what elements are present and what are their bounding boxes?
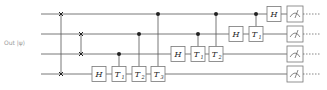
measurement-meter-icon (287, 26, 303, 42)
gate-label: H (232, 30, 241, 39)
gate-label: T (154, 70, 160, 79)
gate-subscript: 3 (161, 74, 164, 80)
gate-label: T (194, 50, 200, 59)
gate-label: T (135, 70, 141, 79)
gate-label: H (174, 50, 183, 59)
quantum-circuit: HT1T2T3HT1T2HT1H (0, 0, 327, 90)
control-dot-icon (117, 52, 121, 56)
gate-label: T (252, 30, 258, 39)
control-dot-icon (254, 12, 258, 16)
control-dot-icon (137, 32, 141, 36)
gate-subscript: 1 (201, 54, 204, 60)
control-dot-icon (196, 32, 200, 36)
gate-label: T (212, 50, 218, 59)
gate-subscript: 1 (259, 34, 262, 40)
gate-label: H (270, 10, 279, 19)
measurement-meter-icon (287, 46, 303, 62)
gate-subscript: 2 (218, 54, 222, 60)
gate-label: T (115, 70, 121, 79)
control-dot-icon (214, 12, 218, 16)
measurement-meter-icon (287, 6, 303, 22)
gate-subscript: 2 (141, 74, 145, 80)
measurement-meter-icon (287, 66, 303, 82)
gate-label: H (95, 70, 104, 79)
gate-subscript: 1 (122, 74, 125, 80)
control-dot-icon (156, 12, 160, 16)
